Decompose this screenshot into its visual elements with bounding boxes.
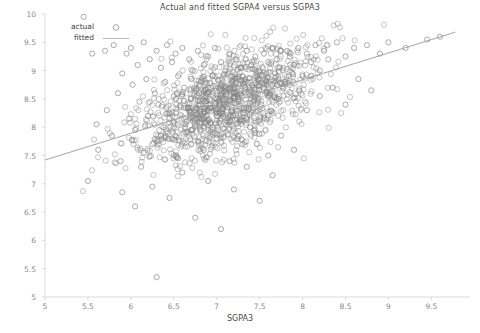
scatter-point <box>189 156 194 161</box>
scatter-point <box>343 102 348 107</box>
scatter-point <box>193 215 198 220</box>
scatter-point <box>292 57 297 62</box>
scatter-point <box>201 133 206 138</box>
scatter-point <box>259 38 264 43</box>
scatter-point <box>386 40 391 45</box>
scatter-point <box>190 165 195 170</box>
scatter-point <box>231 187 236 192</box>
scatter-point <box>337 25 342 30</box>
scatter-point <box>158 65 163 70</box>
scatter-point <box>283 125 288 130</box>
scatter-point <box>223 32 228 37</box>
scatter-point <box>330 85 335 90</box>
scatter-point <box>336 59 341 64</box>
scatter-point <box>165 88 170 93</box>
scatter-point <box>151 172 156 177</box>
scatter-point <box>195 48 200 53</box>
scatter-point <box>339 111 344 116</box>
scatter-point <box>164 43 169 48</box>
scatter-point <box>238 62 243 67</box>
scatter-point <box>232 48 237 53</box>
scatter-point <box>144 76 149 81</box>
scatter-point <box>173 51 178 56</box>
scatter-point <box>163 79 168 84</box>
scatter-point <box>340 36 345 41</box>
scatter-point <box>208 32 213 37</box>
scatter-point <box>288 41 293 46</box>
scatter-point <box>172 87 177 92</box>
scatter-point <box>120 71 125 76</box>
scatter-point <box>135 62 140 67</box>
scatter-point <box>328 72 333 77</box>
scatter-point <box>286 100 291 105</box>
scatter-point <box>249 47 254 52</box>
scatter-point <box>247 150 252 155</box>
scatter-point <box>118 159 123 164</box>
scatter-point <box>369 88 374 93</box>
scatter-point <box>95 155 100 160</box>
scatter-point <box>343 54 348 59</box>
scatter-point <box>266 153 271 158</box>
scatter-point <box>141 40 146 45</box>
scatter-point <box>132 116 137 121</box>
scatter-point <box>139 164 144 169</box>
scatter-point <box>268 139 273 144</box>
scatter-point <box>261 51 266 56</box>
scatter-point <box>161 97 166 102</box>
scatter-point <box>304 51 309 56</box>
scatter-point <box>317 110 322 115</box>
scatter-point <box>85 178 90 183</box>
scatter-point <box>133 204 138 209</box>
scatter-point <box>190 68 195 73</box>
scatter-point <box>352 38 357 43</box>
scatter-point <box>237 44 242 49</box>
scatter-point <box>351 45 356 50</box>
legend-marker-circle-icon <box>102 22 130 33</box>
scatter-point <box>180 68 185 73</box>
scatter-point <box>298 60 303 65</box>
scatter-point <box>268 29 273 34</box>
plot-canvas <box>0 0 480 333</box>
scatter-point <box>268 51 273 56</box>
scatter-point <box>152 91 157 96</box>
scatter-point <box>161 148 166 153</box>
scatter-point <box>252 123 257 128</box>
scatter-point <box>122 120 127 125</box>
scatter-point <box>244 164 249 169</box>
scatter-point <box>276 113 281 118</box>
scatter-point <box>203 61 208 66</box>
scatter-point <box>218 60 223 65</box>
scatter-point <box>214 136 219 141</box>
scatter-point <box>131 142 136 147</box>
scatter-point <box>154 48 159 53</box>
scatter-point <box>253 54 258 59</box>
scatter-point <box>244 48 249 53</box>
scatter-point <box>218 226 223 231</box>
scatter-point <box>124 51 129 56</box>
scatter-point <box>144 107 149 112</box>
scatter-point <box>304 108 309 113</box>
scatter-point <box>96 147 101 152</box>
scatter-point <box>136 108 141 113</box>
scatter-point <box>303 101 308 106</box>
scatter-point <box>276 145 281 150</box>
scatter-series-actual <box>81 14 443 280</box>
scatter-point <box>130 82 135 87</box>
scatter-point <box>151 87 156 92</box>
scatter-point <box>224 45 229 50</box>
scatter-point <box>364 43 369 48</box>
scatter-point <box>120 190 125 195</box>
scatter-point <box>325 85 330 90</box>
scatter-point <box>264 33 269 38</box>
scatter-point <box>257 198 262 203</box>
scatter-point <box>152 77 157 82</box>
scatter-point <box>180 170 185 175</box>
scatter-point <box>222 148 227 153</box>
scatter-point <box>206 178 211 183</box>
scatter-point-cloud <box>80 21 386 194</box>
scatter-point <box>201 147 206 152</box>
scatter-point <box>279 133 284 138</box>
scatter-point <box>168 99 173 104</box>
scatter-point <box>326 125 331 130</box>
scatter-point <box>198 66 203 71</box>
